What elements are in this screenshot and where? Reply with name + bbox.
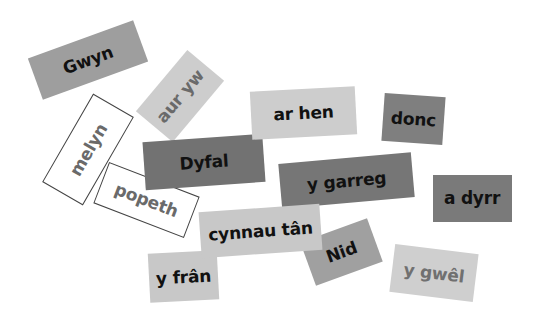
word-card-dyfal[interactable]: Dyfal <box>142 134 265 190</box>
word-card-label: aur yw <box>152 65 208 126</box>
word-card-donc[interactable]: donc <box>381 93 445 145</box>
word-card-a-dyrr[interactable]: a dyrr <box>433 175 512 222</box>
word-card-label: melyn <box>65 119 111 179</box>
word-card-gwyn[interactable]: Gwyn <box>28 20 148 100</box>
word-card-label: donc <box>390 107 437 130</box>
word-card-canvas: Nid Gwyn aur yw melyn popeth Dyfal ar he… <box>0 0 538 320</box>
word-card-label: ar hen <box>272 101 333 124</box>
word-card-label: y gwêl <box>402 259 465 286</box>
word-card-y-gwel[interactable]: y gwêl <box>389 244 478 302</box>
word-card-label: cynnau tân <box>207 217 313 244</box>
word-card-y-garreg[interactable]: y garreg <box>278 152 414 208</box>
word-card-ar-hen[interactable]: ar hen <box>249 86 356 139</box>
word-card-label: a dyrr <box>444 188 500 208</box>
word-card-label: Dyfal <box>179 150 229 173</box>
word-card-label: Nid <box>323 237 360 267</box>
word-card-label: y frân <box>155 265 211 288</box>
word-card-aur-yw[interactable]: aur yw <box>136 50 224 142</box>
word-card-label: Gwyn <box>60 42 116 79</box>
word-card-cynnau-tan[interactable]: cynnau tân <box>198 204 322 258</box>
word-card-label: y garreg <box>306 167 387 194</box>
